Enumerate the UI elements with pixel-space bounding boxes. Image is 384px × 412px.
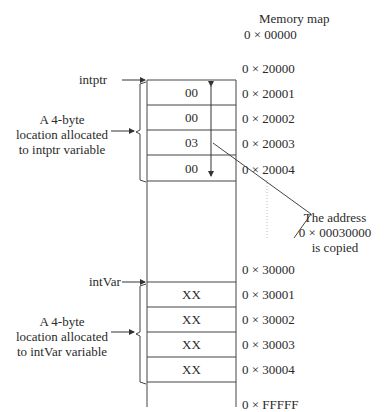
address-20003: 0 × 20003 xyxy=(242,136,295,151)
address-20004: 0 × 20004 xyxy=(242,162,295,177)
address-start: 0 × 00000 xyxy=(244,27,297,42)
address-30001: 0 × 30001 xyxy=(242,287,295,302)
var-cell-1: XX xyxy=(147,282,236,307)
address-30003: 0 × 30003 xyxy=(242,337,295,352)
intvar-bracket xyxy=(136,284,146,384)
address-var-base: 0 × 30000 xyxy=(242,262,295,277)
pointer-cell-2: 00 xyxy=(147,105,236,130)
pointer-cell-4: 00 xyxy=(147,156,236,181)
pointer-cell-1: 00 xyxy=(147,80,236,105)
callout-text: The address 0 × 00030000 is copied xyxy=(294,210,376,255)
intvar-label: intVar xyxy=(89,274,121,289)
address-20002: 0 × 20002 xyxy=(242,111,295,126)
address-30004: 0 × 30004 xyxy=(242,362,295,377)
var-cell-3: XX xyxy=(147,332,236,357)
intptr-description: A 4-byte location allocated to intptr va… xyxy=(12,112,112,157)
address-end: 0 × FFFFF xyxy=(242,397,298,412)
address-pointer-base: 0 × 20000 xyxy=(242,61,295,76)
pointer-cell-3: 03 xyxy=(147,130,236,155)
intvar-description: A 4-byte location allocated to intVar va… xyxy=(12,314,112,359)
var-cell-2: XX xyxy=(147,307,236,332)
address-20001: 0 × 20001 xyxy=(242,86,295,101)
intptr-label: intptr xyxy=(79,72,107,87)
address-30002: 0 × 30002 xyxy=(242,312,295,327)
memory-map-title: Memory map xyxy=(259,11,329,26)
intptr-bracket xyxy=(136,82,146,182)
var-cell-4: XX xyxy=(147,357,236,382)
